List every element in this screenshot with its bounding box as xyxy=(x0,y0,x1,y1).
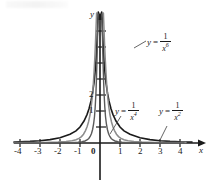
eq-sign-x4: = xyxy=(121,107,126,116)
eq-den-exp-x4: 4 xyxy=(134,111,137,117)
eq-fraction-x4: 1 x4 xyxy=(128,102,139,122)
eq-numerator-x2: 1 xyxy=(174,102,182,110)
x-tick-label--3: -3 xyxy=(34,147,42,156)
eq-sign-x6: = xyxy=(153,38,158,47)
x-tick-label-1: 1 xyxy=(118,147,123,156)
x-tick-label-0: 0 xyxy=(91,147,96,156)
annotation-y-eq-1-over-x6: y = 1 x6 xyxy=(147,33,171,53)
annotation-y-eq-1-over-x4: y = 1 x4 xyxy=(115,102,139,122)
eq-fraction-x2: 1 x2 xyxy=(172,102,183,122)
eq-numerator-x4: 1 xyxy=(130,102,138,110)
y-tick-label-1: 1 xyxy=(89,106,94,115)
y-tick-label-2: 2 xyxy=(89,90,94,99)
annotation-y-eq-1-over-x2: y = 1 x2 xyxy=(159,102,183,122)
eq-lhs-x2: y xyxy=(159,107,163,116)
figure-graph-reciprocal-even-powers: -4 -3 -2 -1 0 1 2 3 4 1 2 x y y = 1 x6 y… xyxy=(0,0,215,194)
eq-den-exp-x6: 6 xyxy=(166,42,169,48)
x-tick-label-2: 2 xyxy=(138,147,143,156)
x-tick-label--2: -2 xyxy=(54,147,62,156)
graph-canvas xyxy=(0,0,215,194)
x-tick-label--4: -4 xyxy=(14,147,22,156)
eq-lhs-x4: y xyxy=(115,107,119,116)
eq-lhs-x6: y xyxy=(147,38,151,47)
eq-denominator-x4: x4 xyxy=(129,111,138,122)
eq-sign-x2: = xyxy=(165,107,170,116)
eq-numerator-x6: 1 xyxy=(162,33,170,41)
leader-line-x2 xyxy=(160,126,167,140)
x-tick-label-4: 4 xyxy=(178,147,183,156)
x-tick-label--1: -1 xyxy=(74,147,82,156)
axis-x-label: x xyxy=(199,146,203,155)
leader-line-x6 xyxy=(134,41,146,48)
x-tick-label-3: 3 xyxy=(158,147,163,156)
eq-fraction-x6: 1 x6 xyxy=(160,33,171,53)
axis-y-label: y xyxy=(90,10,94,19)
eq-den-exp-x2: 2 xyxy=(178,111,181,117)
eq-denominator-x2: x2 xyxy=(173,111,182,122)
eq-denominator-x6: x6 xyxy=(161,42,170,53)
